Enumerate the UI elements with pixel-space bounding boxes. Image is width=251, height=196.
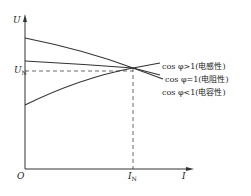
external-characteristic-diagram [0, 0, 251, 196]
curve-label-resistive: cos φ=1(电阻性) [165, 76, 229, 84]
x-axis-label: I [182, 172, 186, 181]
un-label: UN [14, 66, 27, 76]
origin-label: O [17, 172, 24, 181]
in-label: IN [128, 172, 137, 182]
curve-label-capacitive: cos φ<1(电容性) [162, 89, 226, 97]
curve-inductive [25, 38, 160, 75]
curve-label-inductive: cos φ>1(电感性) [162, 63, 226, 71]
y-axis-label: U [13, 16, 21, 25]
x-axis-arrow-icon [186, 167, 194, 171]
y-axis-arrow-icon [23, 14, 27, 22]
